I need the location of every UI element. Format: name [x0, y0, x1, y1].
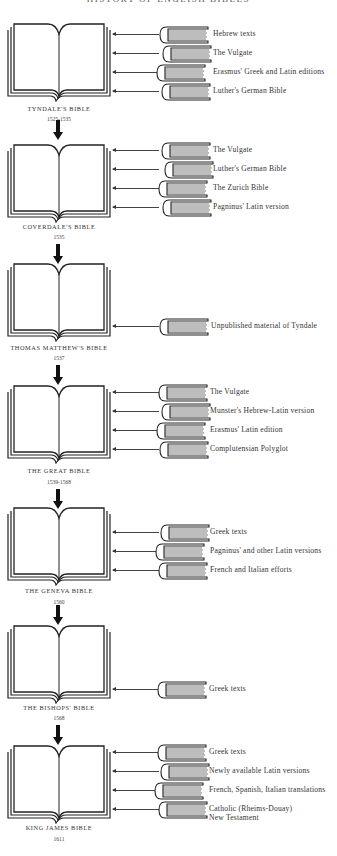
source-item: Pagninus' Latin version — [0, 199, 337, 217]
source-item: French, Spanish, Italian translations — [0, 782, 337, 800]
closed-book-icon — [161, 199, 213, 217]
down-arrow-icon — [53, 605, 63, 625]
closed-book-icon — [158, 26, 210, 44]
down-arrow-icon — [53, 365, 63, 385]
source-label: Catholic (Rheims-Douay) New Testament — [209, 804, 292, 822]
source-item: Catholic (Rheims-Douay) New Testament — [0, 801, 337, 819]
source-label: Luther's German Bible — [213, 86, 286, 95]
bible-date: 1611 — [0, 836, 118, 842]
diagram-title: HISTORY OF ENGLISH BIBLES — [0, 0, 337, 4]
source-item: Pagninus' and other Latin versions — [0, 543, 337, 561]
closed-book-icon — [161, 45, 213, 63]
source-item: Complutensian Polyglot — [0, 441, 337, 459]
source-item: Unpublished material of Tyndale — [0, 318, 337, 336]
bible-name: KING JAMES BIBLE — [0, 824, 118, 831]
closed-book-icon — [157, 801, 209, 819]
source-label: Luther's German Bible — [213, 164, 286, 173]
left-arrow-icon — [113, 207, 159, 208]
closed-book-icon — [159, 524, 211, 542]
closed-book-icon — [154, 543, 206, 561]
source-label: Complutensian Polyglot — [210, 444, 288, 453]
source-item: The Vulgate — [0, 384, 337, 402]
closed-book-icon — [158, 318, 210, 336]
source-item: French and Italian efforts — [0, 562, 337, 580]
source-label: Newly available Latin versions — [209, 766, 310, 775]
source-label: Hebrew texts — [213, 29, 256, 38]
left-arrow-icon — [113, 689, 159, 690]
source-item: Luther's German Bible — [0, 161, 337, 179]
left-arrow-icon — [113, 91, 159, 92]
closed-book-icon — [160, 83, 212, 101]
bible-name: THE GREAT BIBLE — [0, 467, 118, 474]
source-item: Greek texts — [0, 681, 337, 699]
source-label: Pagninus' Latin version — [213, 202, 289, 211]
source-item: Luther's German Bible — [0, 83, 337, 101]
left-arrow-icon — [113, 326, 159, 327]
source-item: Greek texts — [0, 744, 337, 762]
source-label: Greek texts — [209, 747, 246, 756]
left-arrow-icon — [113, 392, 159, 393]
left-arrow-icon — [113, 34, 159, 35]
left-arrow-icon — [113, 532, 159, 533]
source-label: Erasmus' Latin edition — [210, 425, 283, 434]
closed-book-icon — [155, 422, 207, 440]
source-item: The Vulgate — [0, 45, 337, 63]
source-item: The Vulgate — [0, 142, 337, 160]
closed-book-icon — [160, 403, 212, 421]
bible-date: 1535 — [0, 234, 118, 240]
bible-date: 1537 — [0, 355, 118, 361]
source-item: Hebrew texts — [0, 26, 337, 44]
source-item: The Zurich Bible — [0, 180, 337, 198]
source-item: Erasmus' Greek and Latin editions — [0, 64, 337, 82]
source-label: The Vulgate — [213, 48, 252, 57]
left-arrow-icon — [113, 752, 159, 753]
source-label: The Zurich Bible — [213, 183, 269, 192]
left-arrow-icon — [113, 411, 159, 412]
source-item: Erasmus' Latin edition — [0, 422, 337, 440]
bible-date: 1539-1568 — [0, 479, 118, 485]
left-arrow-icon — [113, 449, 159, 450]
left-arrow-icon — [113, 809, 159, 810]
source-label-line1: Catholic (Rheims-Douay) — [209, 804, 292, 813]
source-item: Greek texts — [0, 524, 337, 542]
closed-book-icon — [158, 441, 210, 459]
source-label: Pagninus' and other Latin versions — [210, 546, 322, 555]
bible-name: THE GENEVA BIBLE — [0, 587, 118, 594]
closed-book-icon — [155, 64, 207, 82]
down-arrow-icon — [53, 244, 63, 264]
bible-date: 1568 — [0, 715, 118, 721]
down-arrow-icon — [53, 725, 63, 745]
closed-book-icon — [159, 763, 211, 781]
left-arrow-icon — [113, 188, 159, 189]
source-label: Unpublished material of Tyndale — [211, 321, 317, 330]
source-label: Erasmus' Greek and Latin editions — [213, 67, 324, 76]
left-arrow-icon — [113, 551, 159, 552]
left-arrow-icon — [113, 72, 159, 73]
left-arrow-icon — [113, 771, 159, 772]
source-item: Munster's Hebrew-Latin version — [0, 403, 337, 421]
source-label: Greek texts — [210, 527, 247, 536]
source-item: Newly available Latin versions — [0, 763, 337, 781]
closed-book-icon — [153, 782, 205, 800]
closed-book-icon — [157, 180, 209, 198]
bible-name: THE BISHOPS' BIBLE — [0, 704, 118, 711]
source-label: French, Spanish, Italian translations — [209, 785, 325, 794]
source-label: The Vulgate — [213, 145, 252, 154]
left-arrow-icon — [113, 150, 159, 151]
source-label: French and Italian efforts — [210, 565, 292, 574]
source-label: Greek texts — [209, 684, 246, 693]
left-arrow-icon — [113, 570, 159, 571]
source-label-line2: New Testament — [209, 813, 259, 822]
left-arrow-icon — [113, 169, 159, 170]
left-arrow-icon — [113, 430, 159, 431]
source-label: Munster's Hebrew-Latin version — [210, 406, 314, 415]
closed-book-icon — [156, 681, 208, 699]
closed-book-icon — [157, 384, 209, 402]
bible-name: COVERDALE'S BIBLE — [0, 223, 118, 230]
closed-book-icon — [157, 562, 209, 580]
bible-name: TYNDALE'S BIBLE — [0, 105, 118, 112]
closed-book-icon — [163, 161, 215, 179]
down-arrow-icon — [53, 120, 63, 140]
bible-name: THOMAS MATTHEW'S BIBLE — [0, 344, 118, 351]
left-arrow-icon — [113, 53, 159, 54]
